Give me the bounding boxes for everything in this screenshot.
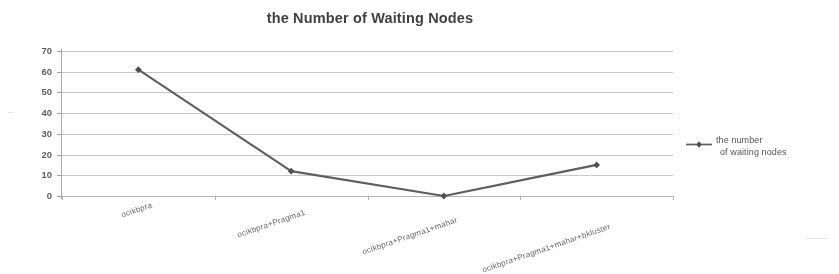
scan-artifact xyxy=(8,112,14,113)
y-tick-mark-60 xyxy=(57,72,62,73)
series-line-the-number-of-waiting-nodes xyxy=(138,70,596,196)
scan-artifact xyxy=(806,238,828,239)
y-tick-mark-30 xyxy=(57,134,62,135)
x-tick-mark-0 xyxy=(62,196,63,200)
y-tick-mark-40 xyxy=(57,113,62,114)
data-point-3 xyxy=(593,162,600,169)
legend-label-line2: of waiting nodes xyxy=(716,146,826,158)
legend-line-diamond-icon xyxy=(686,140,712,149)
y-tick-mark-10 xyxy=(57,175,62,176)
x-tick-mark-2 xyxy=(368,196,369,200)
data-point-2 xyxy=(440,193,447,200)
x-tick-mark-3 xyxy=(520,196,521,200)
y-tick-mark-70 xyxy=(57,51,62,52)
y-tick-mark-50 xyxy=(57,92,62,93)
x-tick-mark-4 xyxy=(673,196,674,200)
legend-label: the number of waiting nodes xyxy=(716,134,826,158)
x-tick-mark-1 xyxy=(215,196,216,200)
legend-label-line1: the number xyxy=(716,135,763,145)
y-tick-mark-20 xyxy=(57,155,62,156)
